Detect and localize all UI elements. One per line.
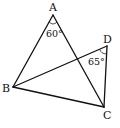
angle-label-d: 65° bbox=[88, 56, 105, 67]
geometry-diagram: A B C D 60° 65° bbox=[0, 0, 120, 128]
vertex-label-b: B bbox=[2, 82, 10, 95]
angle-label-a: 60° bbox=[46, 28, 63, 39]
segment-ab bbox=[13, 15, 53, 87]
vertex-label-a: A bbox=[48, 1, 58, 14]
angle-arc-d bbox=[100, 49, 107, 54]
vertex-label-c: C bbox=[103, 109, 111, 122]
segment-bc bbox=[13, 87, 104, 107]
vertex-label-d: D bbox=[103, 33, 112, 46]
angle-arc-a bbox=[49, 22, 57, 24]
